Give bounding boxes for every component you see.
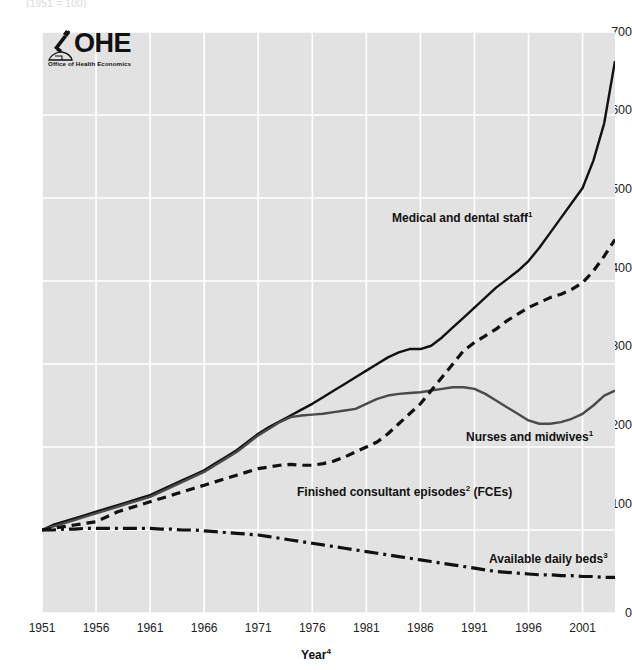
annotation-fces-text: Finished consultant episodes: [297, 485, 466, 499]
annotation-medical-and-dental-staff: Medical and dental staff1: [392, 210, 532, 225]
x-tick-1966: 1966: [181, 621, 227, 635]
annotation-finished-consultant-episodes: Finished consultant episodes2 (FCEs): [297, 484, 512, 499]
x-tick-1976: 1976: [289, 621, 335, 635]
annotation-medical-sup: 1: [528, 210, 532, 219]
x-tick-1991: 1991: [451, 621, 497, 635]
x-tick-1986: 1986: [397, 621, 443, 635]
annotation-beds-sup: 3: [603, 551, 607, 560]
ohe-logo: OHE Office of Health Economics: [46, 28, 150, 70]
x-tick-1951: 1951: [19, 621, 65, 635]
annotation-nurses-and-midwives: Nurses and midwives1: [466, 429, 593, 444]
chart-figure: 700 600 500 400 300 200 100 0 OHE Office…: [0, 0, 632, 670]
x-axis-title: Year4: [0, 647, 632, 662]
gridlines: [42, 32, 615, 613]
plot-area: [42, 32, 615, 613]
x-axis-title-sup: 4: [326, 647, 330, 656]
x-tick-1956: 1956: [73, 621, 119, 635]
plot-svg: [42, 32, 615, 613]
microscope-icon: [46, 28, 76, 62]
annotation-beds-text: Available daily beds: [489, 552, 603, 566]
annotation-nurses-text: Nurses and midwives: [466, 430, 589, 444]
logo-tagline: Office of Health Economics: [48, 60, 131, 67]
annotation-nurses-sup: 1: [589, 429, 593, 438]
x-tick-1996: 1996: [506, 621, 552, 635]
annotation-available-daily-beds: Available daily beds3: [489, 551, 608, 566]
x-tick-1981: 1981: [343, 621, 389, 635]
x-axis-title-text: Year: [301, 648, 326, 662]
logo-wordmark: OHE: [74, 30, 131, 57]
annotation-medical-text: Medical and dental staff: [392, 211, 528, 225]
x-tick-2001: 2001: [560, 621, 606, 635]
annotation-fces-suffix: (FCEs): [470, 485, 512, 499]
x-tick-1961: 1961: [127, 621, 173, 635]
x-tick-1971: 1971: [235, 621, 281, 635]
